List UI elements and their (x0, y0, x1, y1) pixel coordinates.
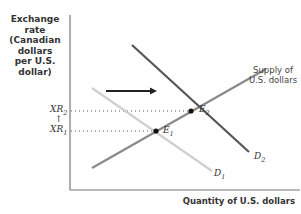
tick-xr1: XR1 (50, 124, 67, 137)
supply-curve-label: Supply of U.S. dollars (245, 66, 301, 85)
label-e1-text: E (163, 125, 170, 135)
supply-label-line2: U.S. dollars (245, 76, 301, 86)
x-axis-label: Quantity of U.S. dollars (183, 196, 295, 206)
label-e1-sub: 1 (170, 130, 174, 138)
y-axis-label-line3: per U.S. dollar) (2, 56, 68, 77)
tick-xr2-sub: 2 (63, 109, 67, 117)
equilibrium-e2-dot (188, 108, 193, 113)
y-axis-label-line2: (Canadian dollars (2, 35, 68, 56)
y-axis-label: Exchange rate (Canadian dollars per U.S.… (2, 14, 68, 77)
label-e2: E2 (199, 104, 210, 117)
tick-xr1-text: XR (50, 124, 63, 134)
label-d2: D2 (254, 151, 265, 164)
up-arrow-icon: ↑ (55, 114, 63, 124)
label-e1: E1 (163, 125, 174, 138)
shift-arrow-head (150, 88, 157, 95)
tick-xr2-text: XR (50, 104, 63, 114)
label-e2-sub: 2 (206, 109, 210, 117)
label-d2-sub: 2 (261, 156, 265, 164)
label-d1-sub: 1 (221, 173, 225, 181)
tick-xr1-sub: 1 (63, 129, 67, 137)
supply-curve (92, 69, 266, 168)
equilibrium-e1-dot (153, 128, 158, 133)
label-d1: D1 (214, 168, 225, 181)
label-e2-text: E (199, 104, 206, 114)
y-axis-label-line1: Exchange rate (2, 14, 68, 35)
